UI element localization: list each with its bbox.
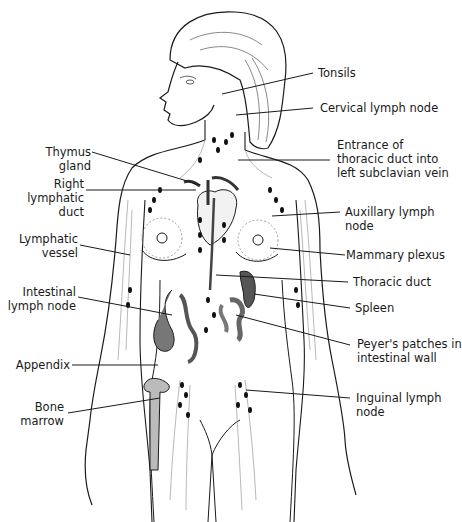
- label-peyers-patches: Peyer's patches in intestinal wall: [357, 337, 462, 365]
- label-thymus-gland: Thymus gland: [11, 145, 91, 173]
- label-spleen: Spleen: [355, 301, 394, 315]
- mammary-plexus-right: [236, 220, 278, 261]
- label-inguinal-lymph-node: Inguinal lymph node: [356, 391, 441, 419]
- label-bone-marrow: Bone marrow: [0, 400, 64, 428]
- label-appendix: Appendix: [0, 358, 70, 372]
- label-thoracic-duct-entrance: Entrance of thoracic duct into left subc…: [337, 138, 449, 180]
- face-outline: [160, 62, 214, 126]
- label-auxillary-lymph-node: Auxillary lymph node: [345, 205, 435, 233]
- intestines-illustration: [154, 290, 243, 362]
- lymph-nodes: [126, 132, 300, 418]
- label-thoracic-duct: Thoracic duct: [353, 275, 431, 289]
- mammary-plexus-left: [142, 218, 186, 260]
- label-mammary-plexus: Mammary plexus: [346, 248, 445, 262]
- label-lymphatic-vessel: Lymphatic vessel: [0, 232, 78, 260]
- lymphatic-system-diagram: Tonsils Cervical lymph node Entrance of …: [0, 0, 462, 522]
- label-cervical-lymph-node: Cervical lymph node: [320, 101, 438, 115]
- label-right-lymphatic-duct: Right lymphatic duct: [4, 177, 84, 219]
- heart-illustration: [197, 190, 236, 245]
- femur-illustration: [144, 378, 169, 470]
- label-intestinal-lymph-node: Intestinal lymph node: [0, 285, 76, 313]
- label-tonsils: Tonsils: [318, 66, 356, 80]
